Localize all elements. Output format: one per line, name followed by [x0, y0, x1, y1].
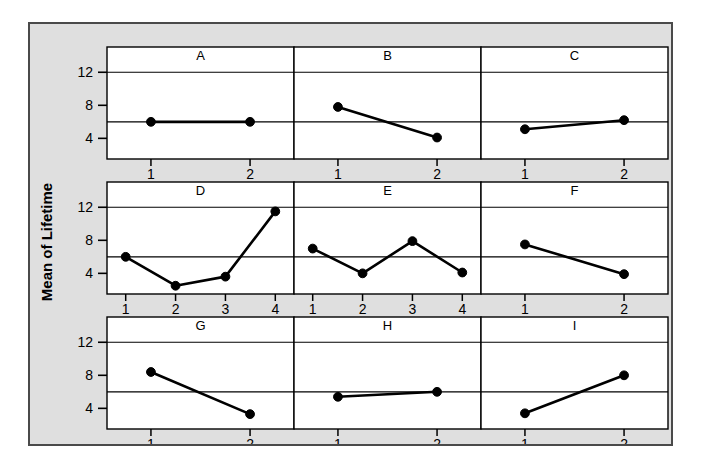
trellis-plot: Mean of Lifetime481248124812A12B12C12D12… — [30, 24, 671, 444]
data-point — [620, 270, 629, 279]
x-tick-label: 3 — [409, 301, 417, 317]
panel-e: E1234 — [294, 182, 481, 317]
data-point — [433, 133, 442, 142]
x-tick-label: 1 — [147, 166, 155, 182]
y-tick-label: 4 — [85, 400, 93, 416]
y-tick-label: 8 — [85, 232, 93, 248]
panel-a: A12 — [107, 47, 294, 182]
figure-frame: Mean of Lifetime481248124812A12B12C12D12… — [28, 22, 673, 446]
y-axis-row-1: 4812 — [77, 64, 107, 146]
y-tick-label: 12 — [77, 199, 93, 215]
data-point — [620, 371, 629, 380]
panel-i: I12 — [481, 317, 668, 444]
x-tick-label: 4 — [271, 301, 279, 317]
data-point — [221, 272, 230, 281]
y-axis-row-2: 4812 — [77, 199, 107, 281]
x-tick-label: 2 — [172, 301, 180, 317]
data-point — [521, 125, 530, 134]
data-point — [147, 368, 156, 377]
panel-background — [294, 47, 481, 159]
x-tick-label: 1 — [521, 436, 529, 444]
y-tick-label: 4 — [85, 130, 93, 146]
x-tick-label: 1 — [521, 166, 529, 182]
y-axis-row-3: 4812 — [77, 334, 107, 416]
x-tick-label: 2 — [620, 301, 628, 317]
x-tick-label: 1 — [147, 436, 155, 444]
panel-background — [481, 182, 668, 294]
x-tick-label: 2 — [433, 436, 441, 444]
data-point — [121, 252, 130, 261]
data-point — [334, 392, 343, 401]
y-tick-label: 4 — [85, 265, 93, 281]
panel-strip-label: H — [383, 318, 392, 333]
panel-background — [294, 182, 481, 294]
panel-h: H12 — [294, 317, 481, 444]
x-tick-label: 2 — [620, 436, 628, 444]
y-axis-label: Mean of Lifetime — [38, 183, 55, 301]
panel-strip-label: B — [383, 48, 392, 63]
x-tick-label: 1 — [122, 301, 130, 317]
data-point — [620, 116, 629, 125]
panel-b: B12 — [294, 47, 481, 182]
panel-g: G12 — [107, 317, 294, 444]
panel-strip-label: F — [571, 183, 579, 198]
data-point — [246, 117, 255, 126]
panel-strip-label: C — [570, 48, 579, 63]
data-point — [246, 410, 255, 419]
data-point — [458, 268, 467, 277]
panel-strip-label: A — [196, 48, 205, 63]
panel-background — [107, 317, 294, 429]
y-tick-label: 12 — [77, 334, 93, 350]
panel-background — [481, 317, 668, 429]
x-tick-label: 4 — [458, 301, 466, 317]
panel-strip-label: I — [573, 318, 577, 333]
panel-background — [107, 182, 294, 294]
x-tick-label: 2 — [433, 166, 441, 182]
panel-c: C12 — [481, 47, 668, 182]
panel-strip-label: E — [383, 183, 392, 198]
data-point — [147, 117, 156, 126]
y-tick-label: 12 — [77, 64, 93, 80]
y-tick-label: 8 — [85, 367, 93, 383]
x-tick-label: 1 — [334, 166, 342, 182]
data-point — [433, 387, 442, 396]
x-tick-label: 1 — [309, 301, 317, 317]
panel-strip-label: G — [195, 318, 205, 333]
panel-background — [294, 317, 481, 429]
panel-background — [107, 47, 294, 159]
data-point — [271, 207, 280, 216]
data-point — [171, 281, 180, 290]
x-tick-label: 1 — [334, 436, 342, 444]
y-tick-label: 8 — [85, 97, 93, 113]
data-point — [521, 409, 530, 418]
panel-d: D1234 — [107, 182, 294, 317]
panel-f: F12 — [481, 182, 668, 317]
x-tick-label: 2 — [620, 166, 628, 182]
x-tick-label: 2 — [359, 301, 367, 317]
panel-background — [481, 47, 668, 159]
x-tick-label: 3 — [222, 301, 230, 317]
panel-strip-label: D — [196, 183, 205, 198]
data-point — [334, 103, 343, 112]
data-point — [308, 244, 317, 253]
data-point — [521, 240, 530, 249]
figure-root: Mean of Lifetime481248124812A12B12C12D12… — [0, 0, 701, 470]
x-tick-label: 2 — [246, 436, 254, 444]
x-tick-label: 2 — [246, 166, 254, 182]
data-point — [358, 269, 367, 278]
data-point — [408, 237, 417, 246]
x-tick-label: 1 — [521, 301, 529, 317]
